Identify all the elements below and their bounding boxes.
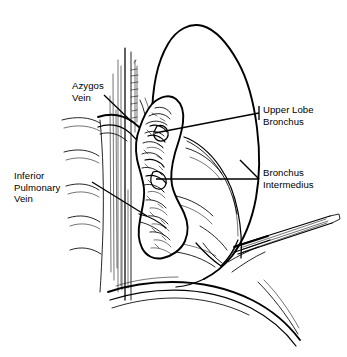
label-inferior-pulmonary-vein-line2: Pulmonary [14, 182, 60, 193]
label-azygos-vein-line2: Vein [72, 92, 91, 103]
label-azygos-vein: AzygosVein [72, 80, 104, 103]
label-bronchus-intermedius: BronchusIntermedius [263, 167, 314, 190]
label-bronchus-intermedius-line1: Bronchus [263, 167, 304, 178]
label-azygos-vein-line1: Azygos [72, 80, 104, 91]
label-inferior-pulmonary-vein-line3: Vein [14, 193, 33, 204]
label-upper-lobe-bronchus-line1: Upper Lobe [263, 104, 314, 115]
label-inferior-pulmonary-vein-line1: Inferior [14, 170, 44, 181]
label-bronchus-intermedius-line2: Intermedius [263, 179, 314, 190]
label-upper-lobe-bronchus: Upper LobeBronchus [263, 104, 314, 127]
anatomical-figure: AzygosVein InferiorPulmonaryVein Upper L… [0, 0, 347, 357]
label-inferior-pulmonary-vein: InferiorPulmonaryVein [14, 170, 60, 205]
label-upper-lobe-bronchus-line2: Bronchus [263, 116, 304, 127]
